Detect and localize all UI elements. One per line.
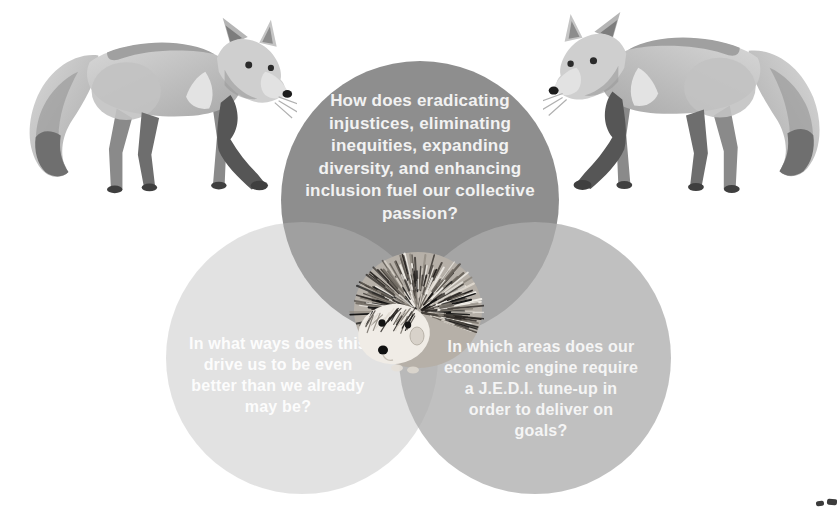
cropped-page-number-fragment [816, 500, 825, 506]
hedgehog-eye-left [378, 319, 385, 327]
hedgehog-eye-right [405, 322, 411, 329]
venn-text-passion: How does eradicating injustices, elimina… [270, 90, 570, 226]
hedgehog-ear [410, 327, 424, 345]
cropped-page-number-fragment [827, 498, 837, 505]
fox-illustration-right [543, 6, 825, 200]
venn-text-economic-engine: In which areas does our economic engine … [429, 337, 653, 442]
scanned-diagram-page: How does eradicating injustices, elimina… [0, 0, 837, 508]
fox-body-group [30, 18, 297, 193]
fox-eye [245, 62, 252, 69]
fox-illustration-left [25, 12, 297, 200]
hedgehog-nose [378, 346, 388, 355]
